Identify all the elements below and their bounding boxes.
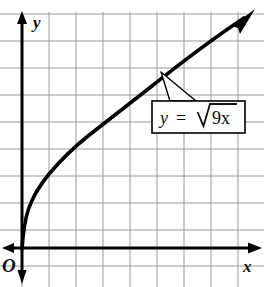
callout-radicand: 9x [212,108,230,128]
callout-lhs: y [158,108,168,128]
origin-label: O [2,255,16,276]
callout-box: y = 9x [152,101,245,133]
figure-background [0,0,264,287]
square-root-graph-figure: square root [0,0,264,287]
callout-equals: = [176,108,186,128]
x-axis-label: x [242,257,252,276]
y-axis-label: y [31,13,41,32]
graph-canvas: y = 9x y x O [0,0,264,287]
